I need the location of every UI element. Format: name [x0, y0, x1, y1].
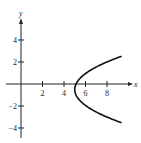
x-tick-label: 8: [105, 89, 109, 98]
parabola-curve: [75, 57, 121, 123]
x-axis-label: x: [133, 80, 138, 89]
y-tick-label: −4: [8, 124, 17, 133]
y-tick-label: 4: [13, 36, 17, 45]
y-axis-label: y: [18, 9, 23, 18]
x-tick-label: 4: [62, 89, 66, 98]
x-tick-label: 2: [41, 89, 45, 98]
x-tick-label: 6: [84, 89, 88, 98]
x-axis-arrow-icon: [128, 82, 133, 86]
plot-area: x y 2468 42−2−4: [0, 0, 141, 143]
y-tick-label: 2: [13, 58, 17, 67]
y-axis-arrow-icon: [19, 18, 23, 24]
y-tick-label: −2: [8, 102, 17, 111]
